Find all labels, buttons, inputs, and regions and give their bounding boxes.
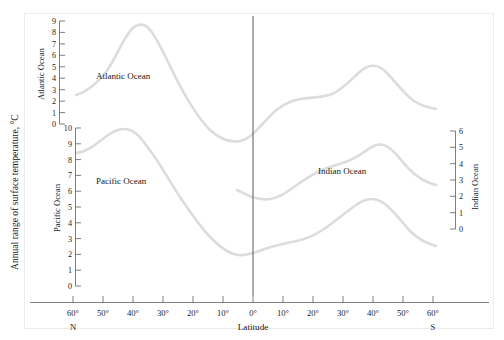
pacific-axis-title: Pacific Ocean — [52, 183, 62, 232]
atlantic-tick-3: 3 — [52, 86, 56, 95]
pacific-tick-7: 7 — [68, 171, 72, 180]
pacific-axis-tick-labels: 10 9 8 7 6 5 4 3 2 1 0 — [64, 124, 72, 291]
pacific-tick-10: 10 — [64, 124, 72, 133]
hemisphere-label-north: N — [70, 322, 77, 332]
atlantic-tick-4: 4 — [52, 74, 56, 83]
curve-pacific-ocean — [76, 129, 436, 255]
pacific-tick-0: 0 — [68, 282, 72, 291]
indian-axis-ticks — [450, 131, 456, 229]
pacific-tick-4: 4 — [68, 219, 72, 228]
pacific-tick-6: 6 — [68, 187, 72, 196]
indian-axis-tick-labels: 6 5 4 3 2 1 0 — [459, 127, 463, 234]
pacific-tick-3: 3 — [68, 235, 72, 244]
chart-plot-area: 9 8 7 6 5 4 3 2 1 0 Atlantic Ocean — [0, 0, 504, 340]
x-axis-tick-labels: 60° 50° 40° 30° 20° 10° 0° 10° 20° 30° 4… — [67, 308, 440, 318]
x-tick-30s: 30° — [337, 308, 350, 318]
atlantic-tick-9: 9 — [52, 17, 56, 26]
atlantic-tick-1: 1 — [52, 109, 56, 118]
x-tick-40s: 40° — [367, 308, 380, 318]
indian-tick-5: 5 — [459, 143, 463, 152]
indian-tick-4: 4 — [459, 160, 463, 169]
indian-tick-3: 3 — [459, 176, 463, 185]
hemisphere-label-south: S — [431, 322, 436, 332]
x-tick-10s: 10° — [277, 308, 290, 318]
indian-tick-6: 6 — [459, 127, 463, 136]
pacific-tick-5: 5 — [68, 203, 72, 212]
pacific-tick-8: 8 — [68, 156, 72, 165]
atlantic-tick-2: 2 — [52, 97, 56, 106]
indian-tick-0: 0 — [459, 225, 463, 234]
indian-axis-title: Indian Ocean — [470, 163, 480, 210]
atlantic-tick-5: 5 — [52, 63, 56, 72]
pacific-tick-1: 1 — [68, 266, 72, 275]
y-axis-title: Annual range of surface temperature, °C — [9, 114, 20, 270]
x-tick-50s: 50° — [397, 308, 410, 318]
atlantic-axis-title: Atlantic Ocean — [36, 48, 46, 100]
atlantic-tick-7: 7 — [52, 40, 56, 49]
x-tick-60n: 60° — [67, 308, 80, 318]
atlantic-tick-8: 8 — [52, 28, 56, 37]
x-axis-ticks — [73, 296, 433, 303]
curve-atlantic-ocean — [76, 25, 436, 142]
curve-label-indian-ocean: Indian Ocean — [318, 166, 367, 176]
x-tick-30n: 30° — [157, 308, 170, 318]
atlantic-tick-0: 0 — [52, 120, 56, 129]
curve-label-atlantic-ocean: Atlantic Ocean — [96, 71, 151, 81]
curve-label-pacific-ocean: Pacific Ocean — [96, 176, 147, 186]
atlantic-tick-6: 6 — [52, 51, 56, 60]
x-tick-20n: 20° — [187, 308, 200, 318]
pacific-tick-2: 2 — [68, 250, 72, 259]
x-tick-10n: 10° — [217, 308, 230, 318]
x-tick-40n: 40° — [127, 308, 140, 318]
atlantic-axis-ticks — [60, 21, 66, 124]
pacific-tick-9: 9 — [68, 140, 72, 149]
x-tick-0: 0° — [249, 308, 257, 318]
indian-tick-1: 1 — [459, 209, 463, 218]
x-tick-20s: 20° — [307, 308, 320, 318]
x-tick-50n: 50° — [97, 308, 110, 318]
chart-figure: 9 8 7 6 5 4 3 2 1 0 Atlantic Ocean — [0, 0, 504, 340]
x-axis-title: Latitude — [238, 322, 269, 332]
indian-tick-2: 2 — [459, 192, 463, 201]
x-tick-60s: 60° — [427, 308, 440, 318]
atlantic-axis-tick-labels: 9 8 7 6 5 4 3 2 1 0 — [52, 17, 56, 129]
